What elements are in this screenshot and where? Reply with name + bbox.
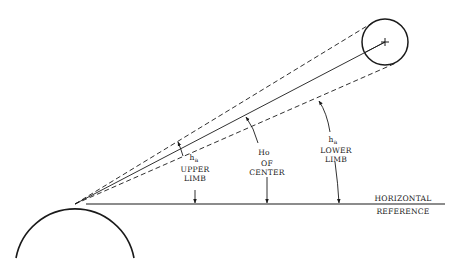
horizontal-reference-label-line1: HORIZONTAL (375, 194, 432, 203)
upper-limb-symbol: ha (190, 153, 199, 163)
upper-limb-label-line1: UPPER (181, 165, 210, 174)
earth-arc (16, 209, 134, 258)
center-symbol: Ho (258, 148, 270, 157)
line-of-sight-lower-limb (75, 63, 396, 204)
line-of-sight-upper-limb (75, 23, 372, 204)
line-of-sight-center (75, 42, 385, 204)
horizontal-reference-label-line2: REFERENCE (376, 207, 429, 216)
lower-limb-symbol: ha (329, 135, 338, 145)
center-cross-mark (381, 38, 389, 46)
lower-limb-label-line2: LIMB (325, 155, 347, 164)
lower-limb-label-line1: LOWER (320, 146, 351, 155)
center-label-line2: CENTER (249, 168, 285, 177)
upper-limb-label-line2: LIMB (184, 174, 206, 183)
center-label-line1: OF (261, 159, 273, 168)
altitude-diagram: ha UPPER LIMB Ho OF CENTER ha LOWER LIMB… (0, 0, 457, 275)
